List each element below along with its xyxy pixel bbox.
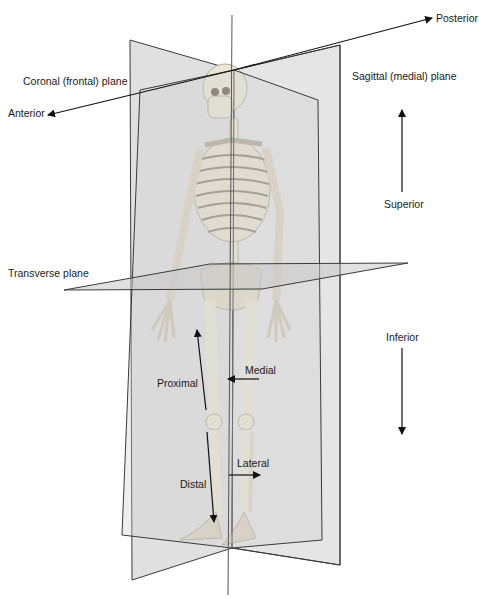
transverse-plane [64,263,408,290]
proximal-label: Proximal [157,378,198,389]
sagittal-plane-label: Sagittal (medial) plane [352,71,456,82]
distal-label: Distal [180,479,206,490]
coronal-plane-front [122,70,322,548]
lateral-label: Lateral [237,458,269,469]
anterior-label: Anterior [8,108,45,119]
medial-label: Medial [245,365,276,376]
inferior-label: Inferior [386,332,419,343]
coronal-plane-label: Coronal (frontal) plane [23,76,127,87]
posterior-label: Posterior [436,13,478,24]
anatomical-planes-diagram [0,0,479,599]
transverse-plane-label: Transverse plane [8,268,89,279]
superior-label: Superior [384,199,424,210]
